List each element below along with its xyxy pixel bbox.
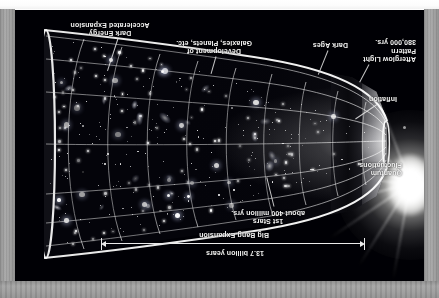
star-dot — [96, 136, 97, 137]
timespan-process-label: Big Bang Expansion — [164, 231, 304, 239]
star-dot — [63, 106, 65, 108]
star-dot — [255, 158, 256, 159]
star-dot — [203, 138, 204, 139]
star-dot — [74, 71, 77, 74]
star-dot — [249, 166, 250, 167]
star-dot — [261, 97, 262, 98]
galaxy-blob — [63, 83, 75, 92]
star-dot — [176, 83, 177, 84]
star-dot — [100, 126, 101, 127]
star-dot — [118, 181, 119, 182]
galaxy-dot — [57, 198, 61, 202]
star-dot — [258, 193, 259, 194]
star-dot — [190, 77, 192, 79]
star-dot — [257, 120, 258, 121]
star-dot — [110, 118, 111, 119]
star-dot — [251, 89, 252, 90]
star-dot — [122, 208, 123, 209]
star-dot — [247, 91, 248, 92]
star-dot — [208, 91, 210, 93]
star-dot — [126, 127, 128, 129]
star-dot — [275, 174, 277, 176]
star-dot — [195, 169, 196, 170]
galaxy-dot — [64, 218, 68, 222]
star-dot — [243, 130, 244, 131]
star-dot — [52, 46, 53, 47]
star-dot — [315, 110, 316, 111]
star-dot — [292, 173, 293, 174]
scan-speck — [403, 126, 406, 129]
galaxy-blob — [158, 110, 174, 125]
star-dot — [79, 78, 80, 79]
star-dot — [137, 216, 138, 217]
galaxy-dot — [190, 181, 194, 185]
star-dot — [252, 155, 253, 156]
star-dot — [53, 222, 54, 223]
star-dot — [174, 107, 175, 108]
star-dot — [127, 109, 128, 110]
star-dot — [243, 135, 244, 136]
timespan-arrow-line — [106, 243, 360, 244]
star-dot — [172, 202, 173, 203]
star-dot — [64, 78, 65, 79]
star-dot — [184, 197, 185, 198]
star-dot — [157, 186, 159, 188]
star-dot — [143, 86, 144, 87]
star-dot — [104, 91, 105, 92]
star-dot — [266, 102, 267, 103]
star-dot — [264, 106, 265, 107]
star-dot — [156, 127, 158, 129]
star-dot — [92, 238, 94, 240]
galaxy-blob — [98, 204, 105, 212]
star-dot — [317, 171, 318, 172]
star-dot — [105, 75, 106, 76]
star-dot — [54, 96, 56, 98]
star-dot — [153, 119, 154, 120]
star-dot — [232, 107, 234, 109]
star-dot — [310, 119, 311, 120]
galaxy-blob — [184, 119, 192, 127]
star-dot — [201, 108, 203, 110]
star-dot — [123, 231, 124, 232]
star-dot — [314, 123, 316, 125]
star-dot — [153, 196, 154, 197]
star-dot — [98, 185, 99, 186]
star-dot — [136, 78, 138, 80]
timespan-duration-label: 13.7 billion years — [170, 249, 300, 257]
star-dot — [269, 129, 270, 130]
star-dot — [323, 130, 324, 131]
star-dot — [127, 141, 128, 142]
star-dot — [115, 164, 116, 165]
star-dot — [275, 113, 276, 114]
galaxy-blob — [200, 83, 211, 94]
star-dot — [148, 166, 149, 167]
star-dot — [138, 106, 139, 107]
star-dot — [240, 201, 241, 202]
star-dot — [179, 80, 180, 81]
star-dot — [285, 161, 288, 164]
galaxy-dot — [253, 100, 258, 105]
star-dot — [95, 75, 97, 77]
star-dot — [92, 143, 93, 144]
star-dot — [67, 243, 68, 244]
star-dot — [349, 126, 350, 127]
star-dot — [58, 140, 61, 143]
star-dot — [94, 48, 96, 50]
star-dot — [54, 52, 55, 53]
star-dot — [104, 192, 107, 195]
star-dot — [312, 169, 314, 171]
star-dot — [147, 142, 149, 144]
star-dot — [157, 143, 158, 144]
star-dot — [100, 84, 101, 85]
star-dot — [83, 125, 85, 127]
star-dot — [126, 57, 127, 58]
star-dot — [80, 123, 81, 124]
star-dot — [133, 192, 134, 193]
star-dot — [151, 130, 152, 131]
star-dot — [248, 159, 250, 161]
label-inflation: Inflation — [347, 95, 397, 103]
star-dot — [211, 152, 212, 153]
star-dot — [163, 220, 165, 222]
star-dot — [103, 232, 106, 235]
star-dot — [157, 104, 158, 105]
